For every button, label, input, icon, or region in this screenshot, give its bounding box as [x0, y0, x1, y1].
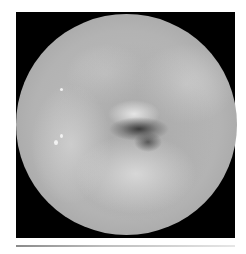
divider-line: [16, 245, 235, 247]
endoscopic-view: [16, 14, 237, 235]
light-reflection: [60, 134, 63, 138]
light-reflection: [54, 140, 58, 145]
image-frame: [16, 12, 235, 238]
light-reflection: [60, 88, 63, 91]
